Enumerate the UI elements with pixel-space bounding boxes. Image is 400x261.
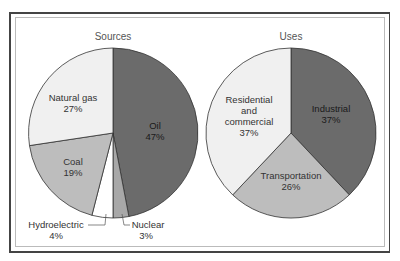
label-residential-line3: commercial [225,116,274,127]
label-natural-gas: Natural gas [49,92,98,103]
uses-title: Uses [280,31,303,42]
label-transportation: Transportation [261,170,322,181]
label-nuclear: Nuclear [132,219,165,230]
label-oil-pct: 47% [145,131,165,142]
label-natural-gas-pct: 27% [63,103,83,114]
label-nuclear-pct: 3% [139,230,153,241]
label-oil: Oil [149,120,161,131]
sources-title: Sources [95,31,132,42]
label-residential-pct: 37% [239,127,259,138]
energy-pie-charts: Sources Natural gas 27% Oil 47% Coal 19%… [0,0,400,261]
label-transportation-pct: 26% [281,181,301,192]
label-industrial: Industrial [312,103,351,114]
label-industrial-pct: 37% [321,114,341,125]
label-residential-line2: and [241,105,257,116]
label-hydroelectric-pct: 4% [49,230,63,241]
label-hydroelectric: Hydroelectric [28,219,84,230]
label-coal-pct: 19% [63,167,83,178]
label-coal: Coal [63,156,83,167]
label-residential-line1: Residential [226,94,273,105]
sources-pie [29,48,198,218]
uses-pie [206,48,376,218]
